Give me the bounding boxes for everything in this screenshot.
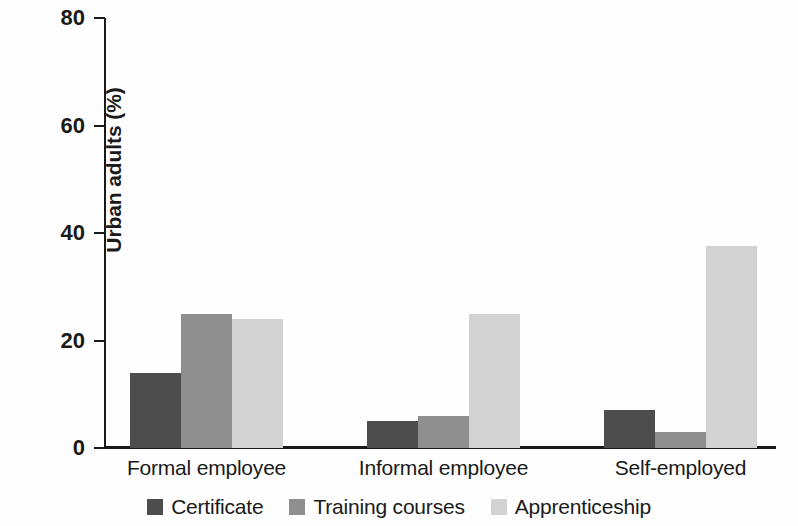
y-axis-tick-label: 60	[61, 115, 85, 137]
y-axis-tick-label: 40	[61, 222, 85, 244]
y-axis-tick-label: 20	[61, 330, 85, 352]
legend-item: Training courses	[289, 495, 464, 519]
chart-legend: CertificateTraining coursesApprenticeshi…	[0, 495, 798, 519]
bar	[604, 410, 655, 448]
x-axis-category-label: Self-employed	[531, 456, 798, 480]
legend-label: Apprenticeship	[515, 495, 651, 519]
legend-swatch-icon	[289, 499, 305, 515]
legend-swatch-icon	[147, 499, 163, 515]
legend-label: Certificate	[171, 495, 263, 519]
bar-group	[130, 18, 283, 448]
legend-label: Training courses	[313, 495, 464, 519]
y-axis-tick-label: 80	[61, 7, 85, 29]
legend-item: Apprenticeship	[491, 495, 651, 519]
bar	[130, 373, 181, 448]
bar	[367, 421, 418, 448]
bar	[655, 432, 706, 448]
plot-area	[104, 18, 776, 448]
bar	[181, 314, 232, 448]
legend-item: Certificate	[147, 495, 263, 519]
bar-chart-figure: Urban adults (%) 020406080 Formal employ…	[0, 0, 798, 526]
bar	[418, 416, 469, 448]
bar-group	[367, 18, 520, 448]
bar-group	[604, 18, 757, 448]
bar	[232, 319, 283, 448]
legend-swatch-icon	[491, 499, 507, 515]
bar	[469, 314, 520, 448]
bar	[706, 246, 757, 448]
